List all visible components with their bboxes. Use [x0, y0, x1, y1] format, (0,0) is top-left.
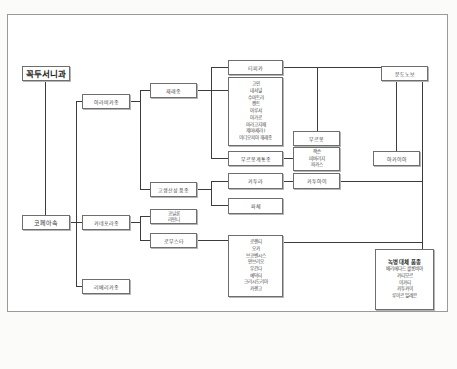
connector-line [130, 101, 140, 102]
connector-line [140, 90, 150, 91]
connector-line [140, 216, 141, 241]
node-robusta-varieties: 로렌티 오카 브코벤시스 안브리오 우간다 예덕터 크리시도리아 카렌고 [228, 235, 283, 297]
connector-line [211, 181, 212, 206]
node-arabica: 아라비카종 [82, 94, 130, 109]
connector-line [197, 90, 228, 91]
connector-line [422, 81, 423, 249]
connector-line [211, 205, 228, 206]
connector-line [140, 90, 141, 190]
node-label: 카투아이 [307, 178, 327, 184]
list-item: 우간다 [250, 266, 262, 273]
list-item: 카티모르 [397, 273, 413, 280]
connector-line [396, 81, 397, 151]
list-item: 루이르 일레븐 [392, 293, 417, 300]
node-high-yield: 고생산성 품종 [150, 182, 197, 197]
node-robusta: 로부스타 [150, 233, 197, 248]
node-label: 부르봉 [309, 136, 324, 142]
node-label: 재래종 [166, 88, 181, 94]
node-caturra: 카투라 [228, 173, 283, 189]
node-bourbon-group: 부르봉계통종 [228, 151, 283, 166]
list-item: 로렌티 [250, 239, 262, 246]
node-rust-resistant: 녹병 대체 품종 베리에다드 콜롬비아 카티모르 이카티 카투카이 루이르 일레… [375, 249, 434, 310]
node-conilon: 코닐론 라탄니 [150, 209, 197, 224]
list-item: 잭슨 [313, 149, 321, 156]
node-bourbon-descendants: 잭슨 미버리지 파카스 [293, 147, 340, 171]
connector-line [140, 189, 150, 190]
node-coffea-genus: 코페아속 [22, 215, 70, 230]
node-label: 티피카 [248, 65, 263, 71]
list-item: 아루샤 [250, 108, 262, 115]
node-label: 리베리카종 [94, 284, 119, 290]
connector-line [317, 67, 318, 131]
list-item: 안브리오 [248, 259, 264, 266]
list-item: 카투카이 [397, 286, 413, 293]
node-canephora: 카네포라종 [82, 215, 130, 230]
connector-line [45, 81, 46, 215]
list-item: 제마(세라) [246, 128, 266, 135]
connector-line [211, 67, 228, 68]
connector-line [283, 181, 293, 182]
connector-line [403, 181, 422, 182]
node-pache: 파체 [228, 198, 283, 214]
node-label: 파체 [251, 203, 261, 209]
connector-line [283, 242, 422, 243]
list-item: 아가로 [250, 115, 262, 122]
list-item: 파카스 [311, 162, 323, 169]
node-mundo-novo: 문도노보 [381, 66, 428, 81]
node-traditional: 재래종 [150, 83, 197, 98]
node-liberica: 리베리카종 [82, 279, 130, 294]
node-label: 부르봉계통종 [241, 156, 271, 162]
connector-line [130, 222, 140, 223]
node-label: 카네포라종 [94, 220, 119, 226]
connector-line [140, 216, 150, 217]
list-item: 라탄니 [168, 217, 180, 223]
node-label: 아카이아 [387, 156, 407, 162]
node-rubiaceae: 꼭두서니과 [22, 66, 70, 81]
node-label: 로부스타 [164, 238, 184, 244]
list-item: 내셔널 [250, 88, 262, 95]
node-label: 꼭두서니과 [26, 71, 66, 77]
connector-line [76, 101, 77, 287]
connector-line [211, 181, 228, 182]
node-typica: 티피카 [228, 60, 283, 75]
node-acaia: 아카이아 [373, 151, 420, 166]
connector-line [283, 67, 381, 68]
node-label: 카투라 [248, 178, 263, 184]
connector-line [211, 67, 212, 159]
node-label: 고생산성 품종 [158, 187, 190, 193]
list-item: 베리에다드 콜롬비아 [386, 266, 423, 273]
node-label: 문도노보 [395, 71, 415, 77]
connector-line [197, 189, 211, 190]
connector-line [197, 240, 228, 241]
list-item: 카렌고 [250, 286, 262, 293]
connector-line [283, 158, 293, 159]
connector-line [140, 240, 150, 241]
node-typica-descendants: 고인 내셔널 수마트라 켄트 아루샤 아가로 마라고지페 제마(세라) 이디오피… [228, 77, 283, 146]
connector-line [340, 181, 403, 182]
connector-line [211, 158, 228, 159]
node-label: 아라비카종 [94, 99, 119, 105]
list-item: 이디오피아 재래종 [239, 135, 272, 142]
node-bourbon: 부르봉 [293, 131, 340, 146]
node-label: 코페아속 [34, 220, 58, 226]
list-item: 오카 [252, 246, 260, 253]
node-catuai: 카투아이 [293, 173, 340, 189]
